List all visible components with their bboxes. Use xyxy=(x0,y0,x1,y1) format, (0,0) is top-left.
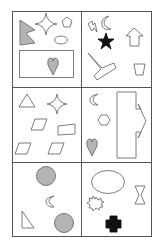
cell-r1c2 xyxy=(88,16,145,80)
gray-circle-icon xyxy=(55,214,74,233)
ellipse-icon xyxy=(55,36,68,44)
gray-circle-icon xyxy=(37,167,56,186)
black-cross-icon xyxy=(106,216,121,232)
trapezoid-icon xyxy=(134,64,145,75)
triangle-icon xyxy=(19,94,35,107)
pentagon-icon xyxy=(62,17,72,27)
parallelogram-icon xyxy=(15,143,31,154)
parallelogram-icon xyxy=(48,143,64,154)
rectangle-icon xyxy=(20,51,74,78)
v-shape-icon xyxy=(88,53,116,80)
shape-grid-puzzle xyxy=(0,0,159,249)
cell-r2c1 xyxy=(15,94,75,154)
four-point-star-icon xyxy=(35,13,57,35)
crescent-icon xyxy=(102,16,111,30)
crescent-icon xyxy=(46,196,54,207)
hourglass-icon xyxy=(135,186,145,204)
right-arrow-block-icon xyxy=(117,92,146,158)
gray-heart-icon xyxy=(87,139,97,156)
four-point-star-icon xyxy=(47,94,67,114)
up-arrow-icon xyxy=(126,28,143,46)
cell-r3c2 xyxy=(87,171,145,233)
lightning-bolt-icon xyxy=(88,21,97,32)
parallelogram-icon xyxy=(31,119,47,130)
crescent-icon xyxy=(90,94,98,105)
quadrilateral-icon xyxy=(58,124,75,135)
right-triangle-icon xyxy=(22,211,34,228)
cell-r3c1 xyxy=(22,167,74,233)
ellipse-icon xyxy=(92,171,125,194)
cell-r1c1 xyxy=(20,13,74,78)
black-star-icon xyxy=(98,33,114,49)
starburst-icon xyxy=(87,196,104,211)
hexagon-icon xyxy=(98,115,110,125)
gray-heart-icon xyxy=(48,58,58,75)
cell-r2c2 xyxy=(87,92,146,158)
gray-notched-triangle-icon xyxy=(20,20,35,45)
